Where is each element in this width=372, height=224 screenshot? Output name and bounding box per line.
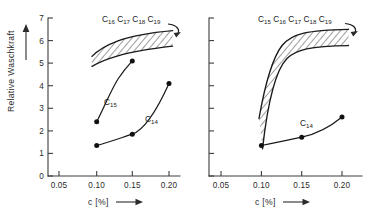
c14-sub: 14 <box>151 118 158 125</box>
right-arrow-icon-2 <box>283 199 310 205</box>
left-c14-point-2 <box>130 132 135 137</box>
left-panel: Relative Waschkraft <box>6 14 181 207</box>
left-c15-curve <box>97 61 133 122</box>
y-tick-2: 2 <box>39 127 44 136</box>
svg-text:C15 C16 C17 C18 C19: C15 C16 C17 C18 C19 <box>258 14 332 25</box>
left-x-ticks <box>59 171 169 176</box>
left-x-tick-labels: 0.05 0.10 0.15 0.20 <box>51 181 178 190</box>
x-tick-020: 0.20 <box>161 181 178 190</box>
chart-svg: Relative Waschkraft <box>0 0 372 224</box>
right-x-tick-020: 0.20 <box>334 181 351 190</box>
right-c14-point-2 <box>299 135 304 140</box>
y-tick-0: 0 <box>39 172 44 181</box>
right-y-ticks <box>209 18 214 176</box>
y-tick-5: 5 <box>39 59 44 68</box>
x-tick-005: 0.05 <box>51 181 68 190</box>
left-c14-point-1 <box>94 143 99 148</box>
y-tick-3: 3 <box>39 104 44 113</box>
right-panel: 0.05 0.10 0.15 0.20 c [%] C15 C16 C17 C <box>209 14 362 207</box>
up-arrow-icon <box>23 24 30 60</box>
right-band-label: C15 C16 C17 C18 C19 <box>258 14 332 25</box>
left-y-ticks <box>48 18 53 176</box>
right-x-tick-015: 0.15 <box>293 181 310 190</box>
x-axis-title: c [%] <box>88 197 109 207</box>
left-c14-point-3 <box>167 81 172 86</box>
left-c15-point-2 <box>130 58 135 63</box>
right-arrow-icon <box>116 199 143 205</box>
svg-text:C15: C15 <box>104 97 117 108</box>
right-x-ticks <box>221 171 342 176</box>
svg-text:C14: C14 <box>300 118 313 129</box>
x-tick-010: 0.10 <box>88 181 105 190</box>
x-tick-015: 0.15 <box>124 181 141 190</box>
rc14-sub: 14 <box>306 122 313 129</box>
right-x-tick-005: 0.05 <box>213 181 230 190</box>
band-sub-4: 19 <box>154 18 161 25</box>
left-c15-point-1 <box>94 119 99 124</box>
rband-sub-5: 19 <box>325 18 332 25</box>
right-c14-point-3 <box>340 114 345 119</box>
right-x-tick-010: 0.10 <box>253 181 270 190</box>
left-c15-label: C15 <box>104 97 117 108</box>
c15-sub: 15 <box>110 101 117 108</box>
svg-text:C16 C17 C18 C19: C16 C17 C18 C19 <box>102 14 161 25</box>
y-tick-6: 6 <box>39 37 44 46</box>
y-tick-1: 1 <box>39 149 44 158</box>
right-x-axis-title: c [%] <box>255 197 276 207</box>
figure-container: Relative Waschkraft <box>0 0 372 224</box>
y-tick-4: 4 <box>39 82 44 91</box>
right-x-tick-labels: 0.05 0.10 0.15 0.20 <box>213 181 351 190</box>
right-c14-label: C14 <box>300 118 313 129</box>
left-y-tick-labels: 0 1 2 3 4 5 6 7 <box>39 14 44 181</box>
y-tick-7: 7 <box>39 14 44 23</box>
left-band-label: C16 C17 C18 C19 <box>102 14 161 25</box>
y-axis-title: Relative Waschkraft <box>6 30 16 112</box>
right-c14-point-1 <box>259 143 264 148</box>
